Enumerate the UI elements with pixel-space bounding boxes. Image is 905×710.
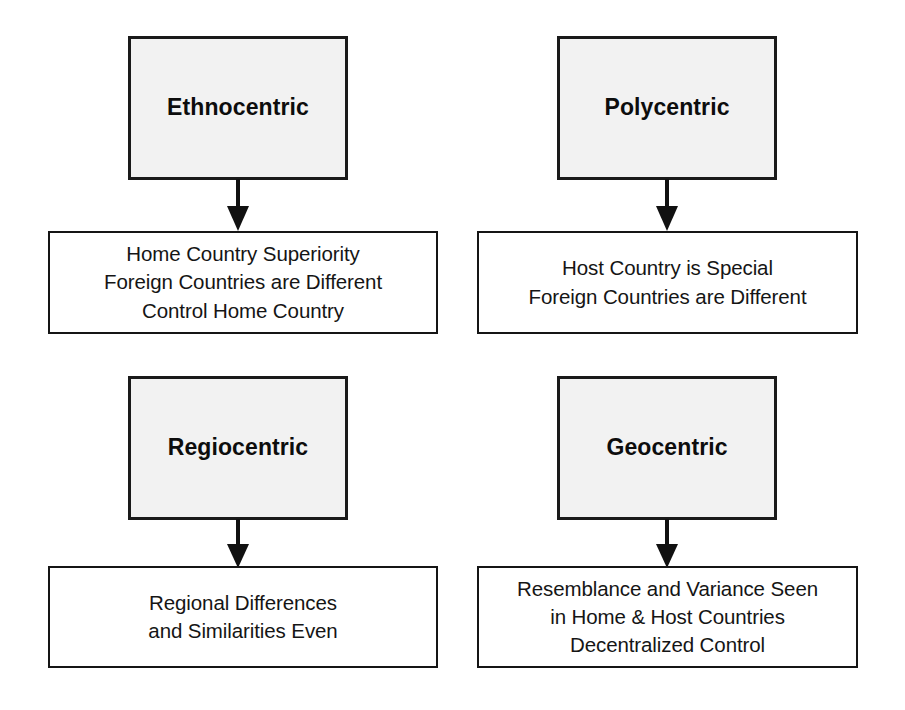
description-box-polycentric: Host Country is Special Foreign Countrie…: [477, 231, 858, 334]
arrow-down-icon-geocentric: [651, 519, 683, 569]
heading-box-regiocentric: Regiocentric: [128, 376, 348, 520]
heading-box-geocentric: Geocentric: [557, 376, 777, 520]
description-text-polycentric: Host Country is Special Foreign Countrie…: [529, 254, 807, 311]
description-text-geocentric: Resemblance and Variance Seen in Home & …: [517, 575, 818, 660]
diagram-canvas: Ethnocentric Home Country Superiority Fo…: [0, 0, 905, 710]
description-box-geocentric: Resemblance and Variance Seen in Home & …: [477, 566, 858, 668]
description-box-regiocentric: Regional Differences and Similarities Ev…: [48, 566, 438, 668]
heading-label-ethnocentric: Ethnocentric: [167, 95, 309, 120]
description-text-ethnocentric: Home Country Superiority Foreign Countri…: [104, 240, 382, 325]
arrow-down-icon-regiocentric: [222, 519, 254, 569]
arrow-down-icon-ethnocentric: [222, 179, 254, 232]
heading-box-polycentric: Polycentric: [557, 36, 777, 180]
arrow-down-icon-polycentric: [651, 179, 683, 232]
heading-box-ethnocentric: Ethnocentric: [128, 36, 348, 180]
heading-label-regiocentric: Regiocentric: [168, 435, 309, 460]
description-box-ethnocentric: Home Country Superiority Foreign Countri…: [48, 231, 438, 334]
heading-label-geocentric: Geocentric: [606, 435, 727, 460]
heading-label-polycentric: Polycentric: [604, 95, 729, 120]
description-text-regiocentric: Regional Differences and Similarities Ev…: [148, 589, 337, 646]
